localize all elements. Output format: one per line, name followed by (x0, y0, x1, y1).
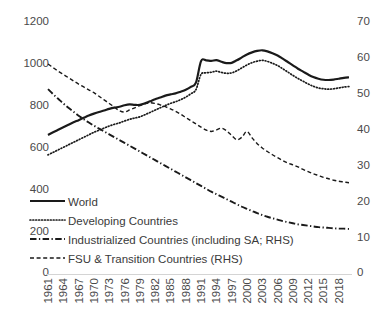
x-axis-tick: 1976 (119, 278, 131, 304)
x-axis-tick: 2003 (256, 278, 268, 304)
x-axis-tick: 1967 (73, 278, 85, 304)
x-axis-tick: 1973 (103, 278, 115, 304)
x-axis-tick: 1979 (134, 278, 146, 304)
chart-container: 1200 1000 800 600 400 200 0 70 60 50 40 … (0, 0, 386, 327)
x-axis-tick: 1982 (149, 278, 161, 304)
x-axis-line (46, 274, 352, 275)
x-axis-tick: 1964 (57, 278, 69, 304)
legend-item-developing-countries: Developing Countries (68, 215, 178, 228)
x-axis-tick: 2018 (333, 278, 345, 304)
legend-item-industrialized-countries: Industrialized Countries (including SA; … (68, 234, 294, 247)
x-axis-tick: 2012 (302, 278, 314, 304)
x-axis-tick: 1988 (180, 278, 192, 304)
x-axis-tick: 2006 (272, 278, 284, 304)
x-axis-tick: 2015 (317, 278, 329, 304)
x-axis-tick: 1985 (164, 278, 176, 304)
x-axis-tick: 1997 (226, 278, 238, 304)
x-axis-tick: 1961 (42, 278, 54, 304)
legend-item-world: World (68, 196, 98, 209)
x-axis-tick: 1994 (210, 278, 222, 304)
x-axis-tick: 1970 (88, 278, 100, 304)
legend-item-fsu-transition-countries: FSU & Transition Countries (RHS) (68, 253, 242, 266)
x-axis-tick: 2000 (241, 278, 253, 304)
x-axis-tick: 2009 (287, 278, 299, 304)
x-axis-tick: 1991 (195, 278, 207, 304)
